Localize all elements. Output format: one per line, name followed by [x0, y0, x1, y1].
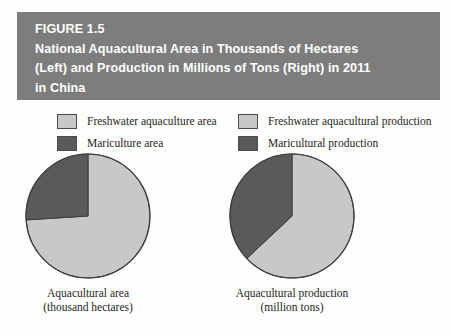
- legend-item-mariculture-area: Mariculture area: [57, 132, 217, 154]
- chart-caption-area-line2: (thousand hectares): [0, 300, 183, 314]
- pie-slice: [26, 154, 88, 220]
- legend-column-production: Freshwater aquacultural production Maric…: [238, 110, 432, 154]
- chart-caption-production-line2: (million tons): [197, 300, 387, 314]
- chart-caption-production-line1: Aquacultural production: [197, 286, 387, 300]
- legend-label-mariculture-area: Mariculture area: [87, 137, 163, 150]
- figure-container: FIGURE 1.5 National Aquacultural Area in…: [0, 0, 451, 336]
- legend-item-freshwater-production: Freshwater aquacultural production: [238, 110, 432, 132]
- figure-number-label: FIGURE 1.5: [35, 20, 440, 40]
- legend-label-freshwater-area: Freshwater aquaculture area: [87, 115, 217, 128]
- figure-title-line-2: (Left) and Production in Millions of Ton…: [35, 59, 440, 79]
- charts-area: Aquacultural area (thousand hectares) Aq…: [0, 152, 451, 336]
- pie-chart-aquacultural-production: [228, 152, 356, 280]
- chart-legend: Freshwater aquaculture area Mariculture …: [0, 110, 451, 154]
- chart-caption-production: Aquacultural production (million tons): [197, 286, 387, 314]
- legend-swatch-dark-gray-icon: [57, 136, 77, 151]
- legend-item-maricultural-production: Maricultural production: [238, 132, 432, 154]
- figure-title-banner: FIGURE 1.5 National Aquacultural Area in…: [17, 12, 440, 100]
- chart-unit-aquacultural-production: Aquacultural production (million tons): [197, 152, 387, 314]
- chart-caption-area-line1: Aquacultural area: [0, 286, 183, 300]
- figure-title-line-1: National Aquacultural Area in Thousands …: [35, 40, 440, 60]
- chart-unit-aquacultural-area: Aquacultural area (thousand hectares): [0, 152, 183, 314]
- figure-title-line-3: in China: [35, 79, 440, 99]
- legend-column-area: Freshwater aquaculture area Mariculture …: [57, 110, 217, 154]
- chart-caption-area: Aquacultural area (thousand hectares): [0, 286, 183, 314]
- legend-label-maricultural-production: Maricultural production: [268, 137, 378, 150]
- legend-swatch-light-gray-icon: [57, 114, 77, 129]
- pie-chart-aquacultural-area: [24, 152, 152, 280]
- pie-svg-area: [24, 152, 152, 280]
- pie-svg-production: [228, 152, 356, 280]
- legend-item-freshwater-area: Freshwater aquaculture area: [57, 110, 217, 132]
- legend-label-freshwater-production: Freshwater aquacultural production: [268, 115, 432, 128]
- legend-swatch-dark-gray-icon: [238, 136, 258, 151]
- legend-swatch-light-gray-icon: [238, 114, 258, 129]
